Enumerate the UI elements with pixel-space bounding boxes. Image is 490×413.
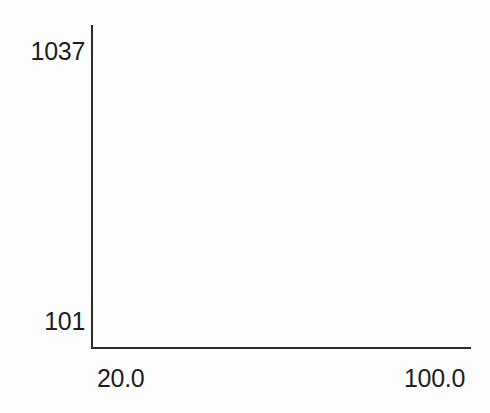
y-axis-line: [91, 25, 93, 349]
y-axis-min-label: 101: [25, 309, 85, 334]
x-axis-min-label: 20.0: [97, 366, 144, 391]
x-axis-max-label: 100.0: [404, 366, 465, 391]
chart-figure: 1037 101 20.0 100.0: [0, 0, 490, 413]
plot-area: [93, 25, 471, 347]
y-axis-max-label: 1037: [25, 39, 85, 64]
x-axis-line: [91, 347, 471, 349]
